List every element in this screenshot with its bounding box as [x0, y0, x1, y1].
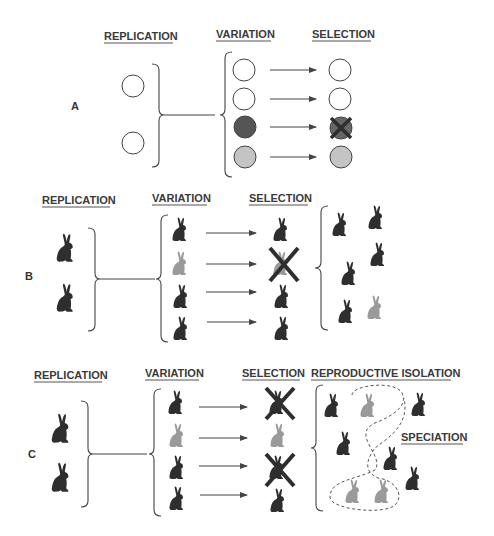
rabbit-icon — [168, 391, 182, 415]
rabbit-icon — [52, 463, 69, 492]
speciation-label: SPECIATION — [401, 431, 467, 443]
rabbit-icon — [270, 489, 284, 513]
rabbit-icon — [383, 447, 397, 471]
rabbit-icon — [169, 487, 183, 511]
rabbit-icon — [57, 284, 73, 312]
rabbit-icon — [57, 234, 73, 262]
evolution-diagram: REPLICATION VARIATION SELECTION A REPLI — [0, 0, 494, 536]
rabbit-icon — [360, 394, 374, 418]
selection-circle — [330, 146, 352, 168]
rabbit-icon — [374, 480, 388, 504]
rabbit-icon — [274, 317, 288, 341]
replication-bracket — [81, 401, 93, 507]
replication-bracket — [152, 64, 164, 167]
rabbit-icon — [324, 394, 338, 418]
rabbit-icon — [169, 456, 183, 480]
rabbit-icon — [345, 480, 359, 504]
rabbit-icon — [173, 317, 187, 341]
variation-circle — [234, 146, 256, 168]
header-variation: VARIATION — [152, 192, 211, 204]
rabbit-icon — [341, 262, 355, 286]
variation-circle — [233, 59, 255, 81]
rabbit-icon — [405, 467, 419, 491]
rabbit-icon — [274, 285, 288, 309]
panel-label-c: C — [28, 448, 36, 460]
panel-c: REPLICATION VARIATION SELECTION REPRODUC… — [28, 367, 467, 516]
rabbit-icon — [336, 432, 350, 456]
header-selection: SELECTION — [242, 367, 305, 379]
variation-bracket — [156, 215, 168, 342]
offspring-bracket — [311, 385, 323, 511]
selection-circle — [329, 88, 351, 110]
header-selection: SELECTION — [312, 28, 375, 40]
replication-circle — [122, 75, 144, 97]
replication-bracket — [88, 228, 100, 331]
header-replication: REPLICATION — [34, 369, 108, 381]
rabbit-icon — [367, 296, 381, 320]
replication-circle — [122, 132, 144, 154]
rabbit-icon — [173, 285, 187, 309]
rabbit-icon — [172, 218, 186, 242]
header-reproductive-isolation: REPRODUCTIVE ISOLATION — [311, 367, 461, 379]
rabbit-icon — [52, 414, 69, 443]
selection-circle — [329, 59, 351, 81]
panel-a: REPLICATION VARIATION SELECTION A — [71, 28, 375, 177]
rabbit-icon — [332, 213, 346, 237]
rabbit-icon — [411, 393, 425, 417]
rabbit-icon — [368, 206, 382, 230]
header-replication: REPLICATION — [104, 30, 178, 42]
rabbit-icon — [270, 424, 284, 448]
panel-b: REPLICATION VARIATION SELECTION B — [25, 192, 384, 342]
variation-bracket — [149, 389, 161, 516]
header-selection: SELECTION — [249, 192, 312, 204]
header-variation: VARIATION — [145, 367, 204, 379]
header-replication: REPLICATION — [42, 194, 116, 206]
rabbit-icon — [338, 300, 352, 324]
panel-label-a: A — [71, 100, 79, 112]
panel-label-b: B — [25, 270, 33, 282]
rabbit-icon — [169, 424, 183, 448]
variation-bracket — [220, 52, 232, 177]
variation-circle — [233, 88, 255, 110]
variation-circle — [234, 116, 256, 138]
offspring-bracket — [315, 206, 328, 330]
header-variation: VARIATION — [216, 28, 275, 40]
rabbit-icon — [370, 243, 384, 267]
rabbit-icon — [172, 252, 186, 276]
rabbit-icon — [273, 218, 287, 242]
